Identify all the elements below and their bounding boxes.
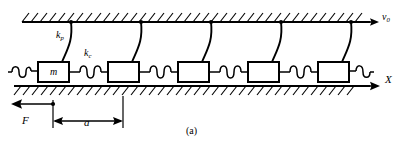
label-kc-subscript: c xyxy=(88,52,91,59)
pinning-spring-2 xyxy=(132,22,141,62)
axis-arrow-x xyxy=(352,82,380,90)
bottom-rail-group xyxy=(14,82,380,95)
mass-block-4 xyxy=(248,62,279,82)
coupling-spring-2 xyxy=(139,66,178,78)
label-spring-coupling: kc xyxy=(84,48,91,60)
label-kp-subscript: p xyxy=(60,34,63,41)
velocity-arrow-v0 xyxy=(355,18,379,26)
coupling-spring-4 xyxy=(279,66,318,78)
masses-group xyxy=(38,62,349,82)
label-a-symbol: a xyxy=(84,116,90,128)
pinning-spring-4 xyxy=(272,22,281,62)
force-arrow-f xyxy=(11,99,55,108)
label-drive-velocity: v0 xyxy=(382,12,390,24)
label-f-symbol: F xyxy=(22,114,29,126)
label-x-symbol: X xyxy=(385,73,392,85)
label-lattice-spacing: a xyxy=(84,117,90,128)
figure-mechanical-chain-diagram: kp kc m v0 X F a (a) xyxy=(0,0,403,143)
label-axis-x: X xyxy=(385,74,392,85)
label-force: F xyxy=(22,115,29,126)
bottom-rail-hatching xyxy=(14,86,354,95)
top-rail-hatching xyxy=(22,13,362,22)
figure-caption: (a) xyxy=(186,126,197,136)
label-mass: m xyxy=(50,67,57,77)
coupling-spring-3 xyxy=(209,66,248,78)
diagram-canvas xyxy=(0,0,403,143)
label-v0-subscript: 0 xyxy=(386,16,389,23)
mass-block-2 xyxy=(108,62,139,82)
label-m-symbol: m xyxy=(50,66,57,77)
label-spring-pinning: kp xyxy=(56,30,64,42)
mass-block-5 xyxy=(318,62,349,82)
coupling-spring-left-end xyxy=(8,67,38,78)
top-rail-group xyxy=(22,13,379,26)
coupling-spring-1 xyxy=(69,66,108,78)
pinning-spring-3 xyxy=(202,22,211,62)
mass-block-3 xyxy=(178,62,209,82)
pinning-springs-group xyxy=(62,22,351,62)
coupling-spring-right-end xyxy=(349,66,374,77)
pinning-spring-1 xyxy=(62,22,71,62)
pinning-spring-5 xyxy=(342,22,351,62)
